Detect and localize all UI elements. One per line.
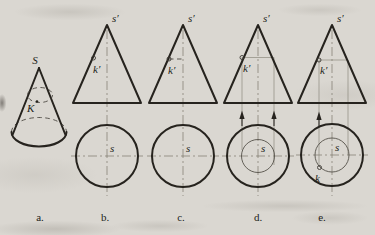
apex-label-s-prime: s′ [112,12,119,24]
point-label-k-prime: k′ [93,63,101,75]
center-label-s: s [261,142,265,154]
panel-d-two-views: s′ k′ s [222,12,294,196]
caption-b: b. [101,211,110,223]
panel-b-two-views: s′ k′ s [71,12,143,196]
up-arrow-left-head [239,111,244,120]
cone-base-back-edge [12,118,67,132]
point-K-dot [36,100,39,103]
panel-e-two-views: s′ k′ s k [296,12,368,196]
point-label-K: K [26,102,35,114]
caption-row: a. b. c. d. e. [36,211,326,223]
apex-label-S: S [32,54,38,66]
cone-right-generatrix [39,68,66,135]
center-label-s: s [335,141,339,153]
apex-label-s-prime: s′ [263,12,270,24]
panel-a-pictorial-cone: S K [12,54,67,146]
apex-label-s-prime: s′ [337,12,344,24]
caption-c: c. [177,211,185,223]
point-label-k-prime: k′ [320,64,328,76]
center-label-s: s [186,142,190,154]
up-arrow-head [316,112,321,121]
cone-projection-diagram: S K s′ k′ s s′ k′ s [0,0,375,235]
caption-e: e. [318,211,326,223]
cone-base-front-edge [12,132,67,146]
panel-c-two-views: s′ k′ s [147,12,219,196]
center-label-s: s [110,142,114,154]
point-label-k: k [315,172,321,184]
apex-label-s-prime: s′ [188,12,195,24]
up-arrow-right-head [271,111,276,120]
caption-d: d. [254,211,263,223]
point-label-k-prime: k′ [168,64,176,76]
cone-left-generatrix [13,68,40,135]
point-label-k-prime: k′ [243,62,251,74]
scanned-textbook-figure: S K s′ k′ s s′ k′ s [0,0,375,235]
caption-a: a. [36,211,44,223]
